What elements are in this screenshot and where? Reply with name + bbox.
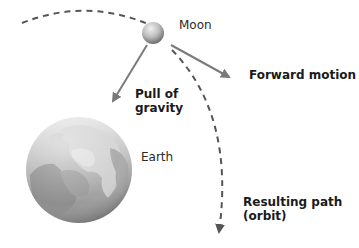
resulting-path-label: Resulting path (orbit) (243, 196, 342, 224)
gravity-label-line2: gravity (135, 102, 183, 116)
gravity-label: Pull of gravity (135, 88, 183, 116)
orbit-path-lower (172, 50, 222, 232)
resulting-path-label-line1: Resulting path (243, 196, 342, 210)
orbit-path-upper (22, 11, 148, 24)
moon-sphere (142, 22, 164, 44)
earth-label: Earth (141, 151, 173, 165)
resulting-path-label-line2: (orbit) (243, 210, 342, 224)
forward-motion-label: Forward motion (249, 69, 356, 83)
moon-label: Moon (179, 19, 212, 33)
earth-globe (26, 117, 132, 223)
gravity-label-line1: Pull of (135, 88, 183, 102)
forward-motion-arrow (171, 45, 229, 77)
